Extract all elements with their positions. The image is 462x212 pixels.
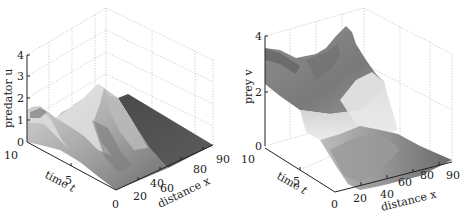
figure: 4 3 2 1 0 predator u 10 5 0 time t 20 60…	[0, 0, 462, 212]
right-ztick-2: 2	[255, 86, 262, 99]
right-xtick-60: 60	[398, 176, 412, 189]
left-ztick-4: 4	[17, 49, 24, 62]
left-ylabel: time t	[43, 168, 79, 195]
left-ztick-0: 0	[17, 136, 24, 149]
right-zlabel: prey v	[242, 68, 255, 104]
left-zlabel: predator u	[2, 69, 15, 128]
left-ytick-0: 0	[112, 198, 119, 211]
left-plot: 4 3 2 1 0 predator u 10 5 0 time t 20 60…	[2, 8, 230, 211]
right-ytick-0: 0	[331, 198, 338, 211]
left-xtick-90: 90	[216, 153, 230, 166]
left-ztick-2: 2	[17, 92, 24, 105]
left-ztick-1: 1	[17, 114, 24, 127]
left-ytick-10: 10	[4, 149, 18, 162]
right-ztick-0: 0	[255, 140, 262, 153]
right-ylabel: time t	[275, 169, 310, 197]
right-xtick-20: 20	[353, 192, 367, 205]
right-plot: 4 2 0 prey v 10 5 0 time t 20 40 60 80 9…	[241, 8, 460, 212]
right-xtick-80: 80	[420, 169, 434, 182]
right-xtick-90: 90	[446, 169, 460, 182]
right-ztick-4: 4	[255, 30, 262, 43]
left-ztick-3: 3	[17, 70, 24, 83]
left-xtick-40-visible: 40	[150, 177, 164, 190]
svg-text:time t: time t	[43, 168, 79, 195]
left-xtick-20: 20	[133, 190, 147, 203]
right-ytick-10: 10	[241, 153, 255, 166]
svg-text:time t: time t	[275, 169, 310, 197]
